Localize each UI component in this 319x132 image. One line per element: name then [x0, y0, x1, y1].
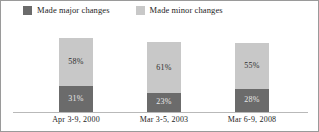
bar-segment-major-2000: 31%: [59, 86, 93, 112]
bar-group-2008: 55% 28%: [235, 29, 269, 112]
bar-label-minor-2003: 61%: [156, 64, 171, 72]
bar-label-minor-2008: 55%: [244, 62, 259, 70]
bar-segment-minor-2000: 58%: [59, 38, 93, 86]
legend-item-minor: Made minor changes: [136, 6, 223, 15]
bar-group-2000: 58% 31%: [59, 29, 93, 112]
legend-label-major: Made major changes: [37, 6, 110, 15]
x-tick-label-2: Mar 6-9, 2008: [197, 115, 307, 125]
legend-swatch-minor-icon: [136, 6, 145, 15]
legend-item-major: Made major changes: [23, 6, 110, 15]
legend-swatch-major-icon: [23, 6, 32, 15]
bar-label-major-2000: 31%: [68, 95, 83, 103]
bar-label-major-2003: 23%: [156, 98, 171, 106]
bar-segment-major-2008: 28%: [235, 89, 269, 112]
chart-legend: Made major changes Made minor changes: [1, 6, 319, 15]
bar-segment-major-2003: 23%: [147, 93, 181, 112]
bar-segment-minor-2003: 61%: [147, 42, 181, 93]
bar-label-minor-2000: 58%: [68, 58, 83, 66]
axis-baseline: [13, 112, 308, 113]
bar-group-2003: 61% 23%: [147, 29, 181, 112]
plot-area: 58% 31% 61% 23% 55% 28%: [1, 29, 319, 113]
stacked-bar-chart: Made major changes Made minor changes 58…: [0, 0, 319, 132]
bar-segment-minor-2008: 55%: [235, 43, 269, 89]
x-axis-labels: Apr 3-9, 2000 Mar 3-5, 2003 Mar 6-9, 200…: [1, 115, 319, 131]
legend-label-minor: Made minor changes: [150, 6, 223, 15]
bar-label-major-2008: 28%: [244, 96, 259, 104]
